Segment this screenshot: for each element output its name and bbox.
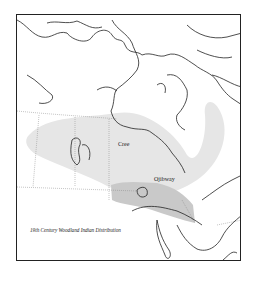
ojibway-label: Ojibway — [154, 176, 175, 182]
canada-outline-map — [17, 15, 241, 261]
map-caption: 19th Century Woodland Indian Distributio… — [30, 227, 121, 233]
cree-region — [26, 102, 224, 193]
map-frame: Cree Ojibway 19th Century Woodland India… — [16, 14, 241, 261]
ojibway-region — [111, 182, 195, 223]
cree-label: Cree — [118, 141, 129, 147]
